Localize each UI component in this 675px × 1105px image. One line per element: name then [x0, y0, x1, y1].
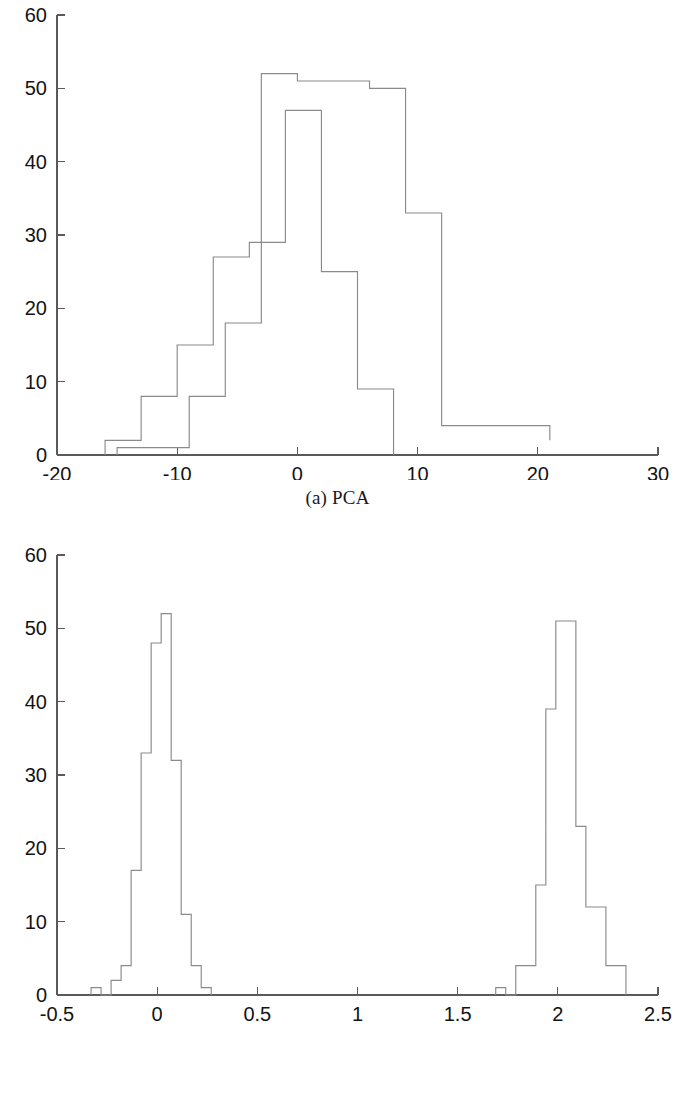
y-axis-tick-label: 50: [25, 617, 47, 639]
x-axis-tick-label: -20: [43, 463, 72, 480]
y-axis-tick-label: 20: [25, 297, 47, 319]
histogram-outline-class-1: [105, 110, 393, 455]
histogram-outline-cluster-left: [91, 614, 211, 995]
x-axis-tick-label: -10: [163, 463, 192, 480]
x-axis-tick-label: 2: [552, 1003, 563, 1025]
histogram-outline-class-2: [117, 74, 550, 455]
fld-histogram-plot: 0102030405060-0.500.511.522.5: [0, 535, 675, 1025]
y-axis-tick-label: 40: [25, 151, 47, 173]
x-axis-tick-label: 0: [292, 463, 303, 480]
figure-container: 0102030405060-20-100102030 (a) PCA 01020…: [0, 0, 675, 1105]
panel-pca: 0102030405060-20-100102030 (a) PCA: [0, 0, 675, 535]
x-axis-tick-label: 1: [352, 1003, 363, 1025]
y-axis-tick-label: 30: [25, 764, 47, 786]
panel-fld: 0102030405060-0.500.511.522.5 (b) FLD: [0, 535, 675, 1080]
histogram-outline-cluster-right: [496, 621, 626, 995]
y-axis-tick-label: 40: [25, 691, 47, 713]
pca-histogram-plot: 0102030405060-20-100102030: [0, 0, 675, 480]
y-axis-tick-label: 60: [25, 4, 47, 26]
y-axis-tick-label: 20: [25, 837, 47, 859]
x-axis-tick-label: -0.5: [40, 1003, 74, 1025]
y-axis-tick-label: 60: [25, 544, 47, 566]
y-axis-tick-label: 10: [25, 911, 47, 933]
x-axis-tick-label: 1.5: [444, 1003, 472, 1025]
y-axis-tick-label: 10: [25, 371, 47, 393]
x-axis-tick-label: 0: [152, 1003, 163, 1025]
panel-caption-pca: (a) PCA: [0, 487, 675, 509]
x-axis-tick-label: 30: [647, 463, 669, 480]
y-axis-tick-label: 50: [25, 77, 47, 99]
x-axis-tick-label: 0.5: [243, 1003, 271, 1025]
x-axis-tick-label: 10: [406, 463, 428, 480]
y-axis-tick-label: 30: [25, 224, 47, 246]
x-axis-tick-label: 2.5: [644, 1003, 672, 1025]
x-axis-tick-label: 20: [527, 463, 549, 480]
